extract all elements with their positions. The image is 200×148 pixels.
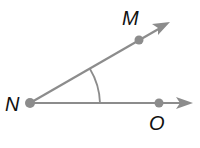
vertex-point-n <box>25 98 35 108</box>
angle-arc <box>90 69 100 103</box>
point-o <box>155 99 164 108</box>
label-n: N <box>5 93 20 115</box>
diagram-svg: N M O <box>0 0 200 148</box>
label-m: M <box>122 7 139 29</box>
arrowhead-icon <box>152 22 170 35</box>
label-o: O <box>149 112 165 134</box>
point-m <box>135 36 144 45</box>
ray-nm <box>30 22 170 103</box>
ray-no <box>30 97 193 109</box>
angle-diagram: N M O <box>0 0 200 148</box>
